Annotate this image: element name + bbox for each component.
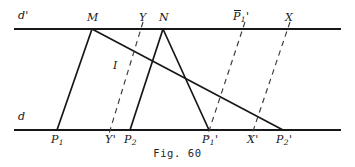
label-line-d: d <box>18 111 25 122</box>
label-point-p2-prime: P2' <box>276 134 292 147</box>
label-point-m: M <box>87 12 98 23</box>
label-point-p1: P1 <box>51 134 64 147</box>
label-point-y-prime: Y' <box>105 134 116 145</box>
label-point-x-prime: X' <box>247 134 259 145</box>
segment-m-p1 <box>57 29 92 130</box>
label-point-p1-prime: P1' <box>202 134 218 147</box>
dashed-segment-pbar1prime-p1prime <box>207 22 245 137</box>
label-line-d-prime: d' <box>18 10 28 21</box>
label-point-y: Y <box>139 12 146 23</box>
label-point-i: I <box>113 60 118 71</box>
label-point-x: X <box>285 12 293 23</box>
segment-n-p1prime <box>163 29 209 130</box>
label-point-p2: P2 <box>124 134 137 147</box>
label-point-n: N <box>159 12 169 23</box>
segment-n-p2 <box>130 29 163 130</box>
segment-m-p2prime <box>92 29 283 130</box>
figure-container: d' d M Y N P1' X I P1 Y' P2 P1' X' P2' F… <box>0 0 355 167</box>
figure-caption: Fig. 60 <box>0 147 355 159</box>
dashed-segment-x-xprime <box>251 22 290 137</box>
label-point-pbar1-prime: P1' <box>233 11 249 24</box>
dashed-segment-y-yprime <box>108 22 143 137</box>
